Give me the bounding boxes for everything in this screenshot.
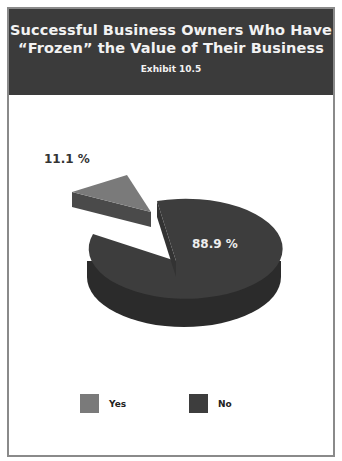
pie-slice-yes <box>72 175 151 227</box>
legend-swatch-yes <box>80 394 99 413</box>
legend-item-yes: Yes <box>80 394 126 413</box>
legend-label-no: No <box>218 399 232 409</box>
pie-chart <box>9 9 333 455</box>
legend-item-no: No <box>189 394 232 413</box>
legend-swatch-no <box>189 394 208 413</box>
slice-label-yes: 11.1 % <box>44 152 90 166</box>
legend-label-yes: Yes <box>109 399 126 409</box>
chart-frame: Successful Business Owners Who Have “Fro… <box>7 7 335 457</box>
slice-label-no: 88.9 % <box>192 237 238 251</box>
